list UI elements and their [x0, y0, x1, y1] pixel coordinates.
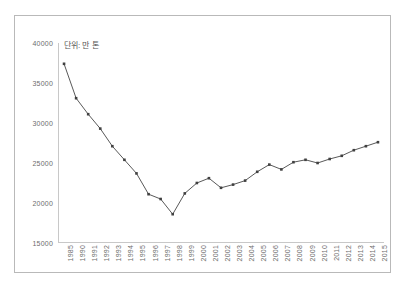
data-point-marker — [123, 159, 126, 162]
data-point-marker — [135, 172, 138, 175]
data-point-marker — [196, 182, 199, 185]
chart-screenshot: 150002000025000300003500040000 단위: 만 톤 1… — [0, 0, 405, 295]
x-axis-tick-label: 2003 — [236, 245, 243, 261]
data-point-marker — [328, 158, 331, 161]
data-point-marker — [171, 213, 174, 216]
line-series — [58, 43, 384, 243]
y-axis-tick-label: 40000 — [33, 40, 53, 47]
y-axis-labels: 150002000025000300003500040000 — [15, 16, 58, 274]
x-axis-tick-label: 2015 — [381, 245, 388, 261]
x-axis-tick-label: 2014 — [369, 245, 376, 261]
data-point-marker — [147, 193, 150, 196]
x-axis-tick-label: 2000 — [200, 245, 207, 261]
x-axis-tick-label: 1991 — [91, 245, 98, 261]
y-axis-tick-label: 15000 — [33, 240, 53, 247]
y-axis-tick-label: 30000 — [33, 120, 53, 127]
data-point-marker — [365, 145, 368, 148]
x-axis-tick-label: 2008 — [296, 245, 303, 261]
data-point-marker — [232, 183, 235, 186]
x-axis-tick-label: 2013 — [357, 245, 364, 261]
x-axis-tick-label: 2012 — [345, 245, 352, 261]
data-point-marker — [75, 97, 78, 100]
x-axis-tick-label: 1996 — [152, 245, 159, 261]
x-axis-tick-label: 2011 — [333, 245, 340, 261]
series-markers — [63, 63, 380, 216]
data-point-marker — [316, 162, 319, 165]
x-axis-tick-label: 2005 — [260, 245, 267, 261]
x-axis-tick-label: 1985 — [67, 245, 74, 261]
data-point-marker — [353, 149, 356, 152]
data-point-marker — [183, 192, 186, 195]
data-point-marker — [268, 163, 271, 166]
x-axis-tick-label: 1994 — [127, 245, 134, 261]
data-point-marker — [292, 161, 295, 164]
x-axis-tick-label: 2009 — [309, 245, 316, 261]
figure-frame: 150002000025000300003500040000 단위: 만 톤 1… — [14, 15, 391, 273]
x-axis-tick-label: 1999 — [188, 245, 195, 261]
data-point-marker — [63, 63, 66, 66]
data-point-marker — [244, 179, 247, 182]
series-polyline — [64, 64, 378, 214]
x-axis-tick-label: 2004 — [248, 245, 255, 261]
x-axis-labels: 1985199019911992199319941995199619971998… — [58, 243, 384, 274]
x-axis-tick-label: 1993 — [115, 245, 122, 261]
x-axis-tick-label: 1990 — [79, 245, 86, 261]
x-axis-tick-label: 2002 — [224, 245, 231, 261]
x-axis-tick-label: 1995 — [139, 245, 146, 261]
x-axis-tick-label: 2007 — [284, 245, 291, 261]
data-point-marker — [280, 168, 283, 171]
y-axis-tick-label: 20000 — [33, 200, 53, 207]
data-point-marker — [99, 127, 102, 130]
x-axis-tick-label: 1998 — [176, 245, 183, 261]
data-point-marker — [159, 198, 162, 201]
data-point-marker — [304, 159, 307, 162]
data-point-marker — [256, 171, 259, 174]
x-axis-tick-label: 2010 — [321, 245, 328, 261]
data-point-marker — [111, 145, 114, 148]
x-axis-tick-label: 2006 — [272, 245, 279, 261]
data-point-marker — [87, 113, 90, 116]
y-axis-tick-label: 35000 — [33, 80, 53, 87]
data-point-marker — [377, 141, 380, 144]
x-axis-tick-label: 1997 — [164, 245, 171, 261]
x-axis-tick-label: 1992 — [103, 245, 110, 261]
x-axis-tick-label: 2001 — [212, 245, 219, 261]
y-axis-tick-label: 25000 — [33, 160, 53, 167]
data-point-marker — [340, 155, 343, 158]
data-point-marker — [208, 177, 211, 180]
data-point-marker — [220, 187, 223, 190]
